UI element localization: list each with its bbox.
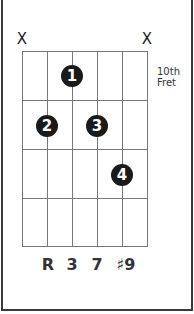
- fret-position-number: 10th: [157, 66, 180, 77]
- frame-left-border: [1, 0, 3, 311]
- interval-label: R: [38, 255, 58, 274]
- finger-dot-3: 3: [86, 115, 108, 137]
- interval-label: 3: [62, 255, 82, 274]
- muted-string-1: X: [140, 30, 154, 48]
- fret-position-label: 10th Fret: [157, 66, 180, 88]
- fret-line: [22, 100, 148, 101]
- interval-label: ♯9: [113, 255, 139, 274]
- finger-dot-4: 4: [111, 164, 133, 186]
- muted-string-6: X: [15, 30, 29, 48]
- fret-position-word: Fret: [157, 77, 180, 88]
- fret-line: [22, 198, 148, 199]
- interval-label: 7: [87, 255, 107, 274]
- fret-line: [22, 149, 148, 150]
- fretboard-grid: 1 2 3 4: [22, 51, 147, 246]
- frame-bottom-border: [1, 309, 193, 311]
- fret-line: [22, 246, 148, 247]
- fret-line: [22, 51, 148, 52]
- finger-dot-1: 1: [61, 65, 83, 87]
- finger-dot-2: 2: [36, 115, 58, 137]
- frame-right-border: [191, 0, 193, 311]
